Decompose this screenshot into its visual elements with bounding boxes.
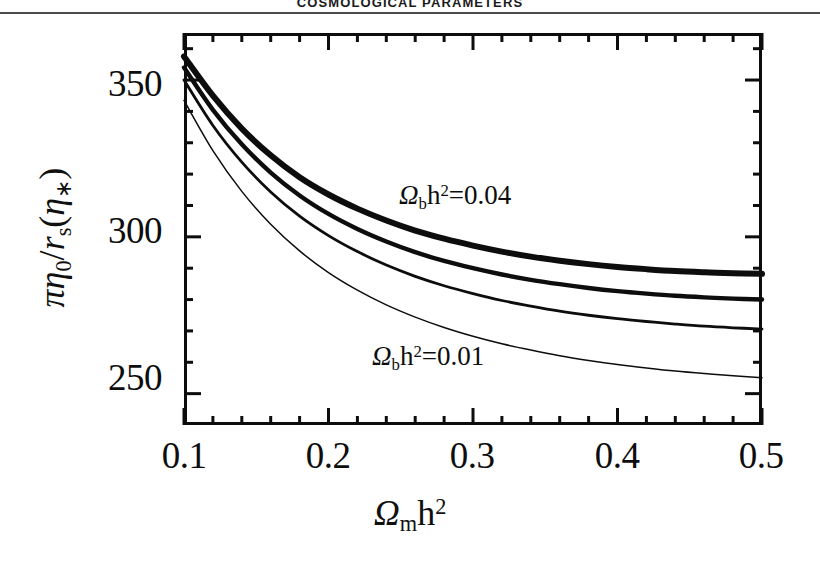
figure-cosmological-parameters: 350 300 250 0.1 0.2 0.3 0.4 0.5 Ωmh2 πη0…	[0, 0, 820, 570]
y-axis-eta: η	[32, 272, 72, 290]
xtick-label-0.5: 0.5	[701, 434, 820, 477]
xtick-label-0.2: 0.2	[268, 434, 388, 477]
y-axis-eta2: η	[32, 198, 72, 216]
y-axis-close-paren: )	[32, 168, 72, 180]
curve-omega-b-h2-0.01	[184, 100, 762, 377]
x-axis-title: Ωmh2	[0, 492, 820, 537]
y-axis-pi: π	[32, 289, 72, 307]
y-axis-eta-subscript: 0	[51, 260, 76, 271]
annotation-lower-value: =0.01	[422, 341, 484, 371]
annotation-upper-curve: Ωbh2=0.04	[399, 180, 511, 214]
annotation-lower-subscript: b	[392, 355, 400, 374]
annotation-upper-value: =0.04	[449, 180, 511, 210]
curve-omega-b-h2-0.04	[184, 57, 762, 274]
annotation-lower-exponent: 2	[413, 342, 421, 361]
y-axis-open-paren: (	[32, 216, 72, 228]
annotation-lower-omega: Ω	[372, 341, 392, 371]
annotation-upper-subscript: b	[419, 194, 427, 213]
x-axis-omega-symbol: Ω	[374, 493, 400, 533]
x-axis-h: h	[417, 493, 435, 533]
y-axis-r-subscript: s	[51, 228, 76, 237]
annotation-lower-h: h	[400, 341, 414, 371]
y-axis-r: r	[32, 236, 72, 250]
y-axis-slash: /	[32, 250, 72, 260]
xtick-label-0.4: 0.4	[557, 434, 677, 477]
y-axis-eta2-subscript: ∗	[51, 180, 76, 198]
annotation-upper-exponent: 2	[440, 181, 448, 200]
xtick-label-0.1: 0.1	[124, 434, 244, 477]
y-axis-title: πη0/rs(η∗)	[31, 88, 76, 388]
xtick-label-0.3: 0.3	[412, 434, 532, 477]
annotation-lower-curve: Ωbh2=0.01	[372, 341, 484, 375]
annotation-upper-h: h	[427, 180, 441, 210]
data-curves	[184, 57, 762, 378]
x-axis-subscript: m	[400, 511, 417, 536]
annotation-upper-omega: Ω	[399, 180, 419, 210]
x-axis-exponent: 2	[435, 494, 446, 519]
